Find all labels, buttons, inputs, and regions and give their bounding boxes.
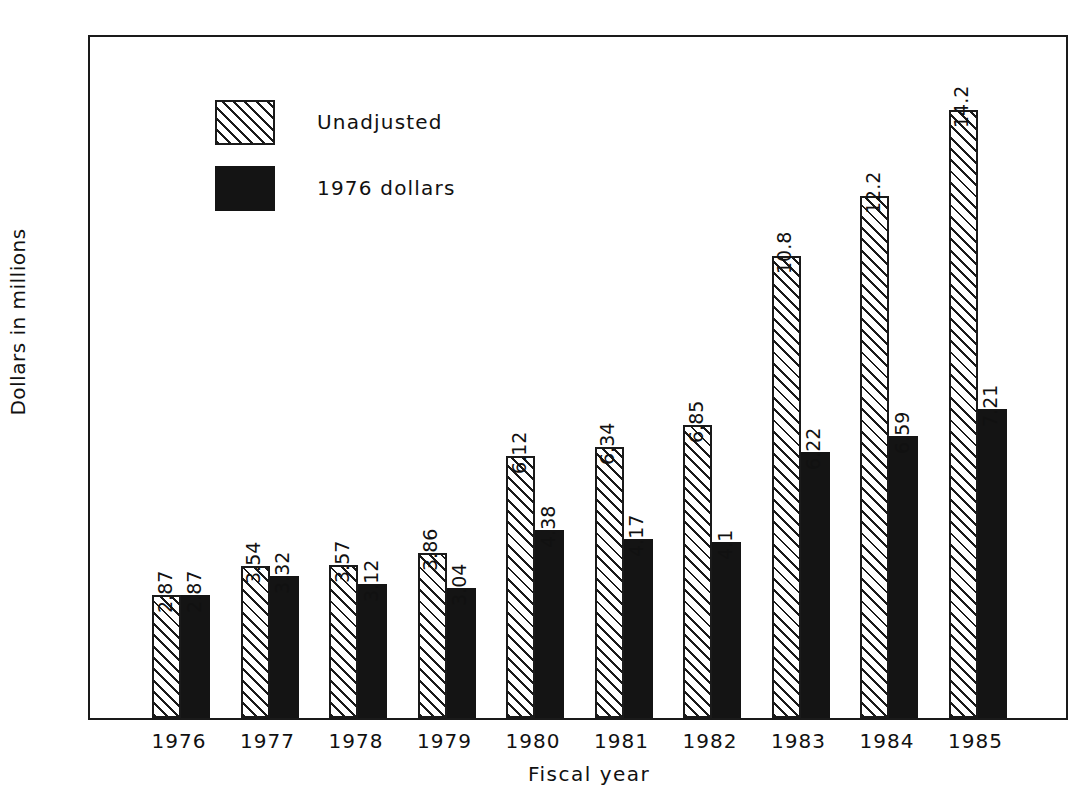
- legend-swatch-hatched-icon: [215, 100, 275, 145]
- bar-value-label: 3.12: [360, 560, 382, 602]
- bar-1985-adjusted: [978, 409, 1007, 718]
- x-tick-mark: [533, 708, 535, 720]
- plot-area: Unadjusted1976 dollars 2.872.873.543.323…: [88, 35, 1068, 720]
- legend-item: 1976 dollars: [215, 163, 456, 213]
- chart-legend: Unadjusted1976 dollars: [215, 97, 456, 229]
- bar-1983-adjusted: [801, 452, 830, 718]
- bar-value-label: 3.57: [331, 541, 353, 583]
- x-tick-mark: [445, 708, 447, 720]
- bar-1979-unadjusted: [418, 553, 447, 718]
- bar-1983-unadjusted: [772, 256, 801, 718]
- bar-1985-unadjusted: [949, 110, 978, 718]
- bar-value-label: 4.1: [714, 530, 736, 560]
- bar-value-label: 6.59: [891, 412, 913, 454]
- legend-swatch-solid-icon: [215, 166, 275, 211]
- bar-value-label: 3.32: [271, 552, 293, 594]
- bar-value-label: 6.85: [685, 400, 707, 442]
- bar-value-label: 12.2: [862, 171, 884, 213]
- bar-value-label: 7.21: [979, 385, 1001, 427]
- legend-item: Unadjusted: [215, 97, 456, 147]
- bar-1981-unadjusted: [595, 447, 624, 718]
- bar-value-label: 4.17: [625, 515, 647, 557]
- bar-1980-unadjusted: [506, 456, 535, 718]
- x-tick-mark: [622, 708, 624, 720]
- bar-1982-adjusted: [712, 542, 741, 718]
- legend-label: Unadjusted: [317, 110, 443, 134]
- bar-value-label: 3.86: [419, 528, 441, 570]
- x-axis-title: Fiscal year: [528, 762, 650, 786]
- bar-value-label: 3.04: [448, 564, 470, 606]
- bar-1977-adjusted: [270, 576, 299, 718]
- bar-1981-adjusted: [624, 539, 653, 718]
- x-tick-mark: [356, 708, 358, 720]
- bar-value-label: 2.87: [183, 571, 205, 613]
- bar-1978-adjusted: [358, 584, 387, 718]
- bar-1976-adjusted: [181, 595, 210, 718]
- bar-value-label: 6.12: [508, 432, 530, 474]
- x-tick-mark: [976, 708, 978, 720]
- bar-1978-unadjusted: [329, 565, 358, 718]
- y-axis-title: Dollars in millions: [6, 42, 30, 602]
- bar-1976-unadjusted: [152, 595, 181, 718]
- bar-value-label: 10.8: [773, 231, 795, 273]
- x-tick-mark: [179, 708, 181, 720]
- bar-1980-adjusted: [535, 530, 564, 718]
- x-tick-label: 1985: [916, 729, 1036, 753]
- bar-chart: Dollars in millions 0246810121416 Unadju…: [0, 0, 1089, 808]
- bar-1984-adjusted: [889, 436, 918, 718]
- legend-label: 1976 dollars: [317, 176, 456, 200]
- x-tick-mark: [799, 708, 801, 720]
- bar-1982-unadjusted: [683, 425, 712, 718]
- bar-value-label: 3.54: [242, 542, 264, 584]
- bar-value-label: 6.34: [596, 422, 618, 464]
- x-tick-mark: [887, 708, 889, 720]
- bar-value-label: 6.22: [802, 427, 824, 469]
- bar-value-label: 14.2: [950, 86, 972, 128]
- bar-1977-unadjusted: [241, 566, 270, 718]
- bar-value-label: 4.38: [537, 506, 559, 548]
- x-tick-mark: [268, 708, 270, 720]
- bar-value-label: 2.87: [154, 571, 176, 613]
- x-tick-mark: [710, 708, 712, 720]
- bar-1984-unadjusted: [860, 196, 889, 718]
- bar-1979-adjusted: [447, 588, 476, 718]
